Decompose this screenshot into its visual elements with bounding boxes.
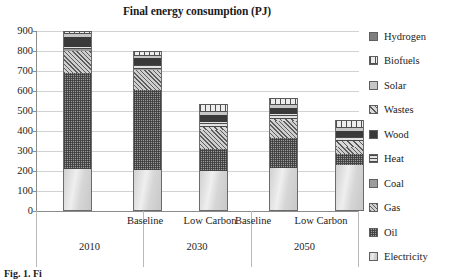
bar-segment-electricity[interactable]	[269, 168, 298, 211]
stacked-bar-2050-baseline[interactable]	[269, 98, 298, 211]
legend-swatch-wood-icon	[369, 130, 378, 139]
bar-segment-gas[interactable]	[269, 121, 298, 138]
x-axis-period-label-2030: 2030	[143, 241, 251, 252]
bar-segment-electricity[interactable]	[63, 169, 92, 211]
y-axis-tick-labels: 900 800 700 600 500 400 300 200 100 0	[0, 31, 33, 211]
y-axis-tick	[33, 51, 37, 52]
bar-segment-oil[interactable]	[335, 154, 364, 165]
bar-segment-wood[interactable]	[133, 58, 162, 65]
y-axis-tick	[33, 71, 37, 72]
legend-swatch-hydrogen-icon	[369, 32, 378, 41]
chart-title: Final energy consumption (PJ)	[36, 5, 358, 17]
bar-segment-biofuels[interactable]	[269, 98, 298, 105]
x-axis-scenario-label-2030-baseline: Baseline	[116, 215, 174, 226]
legend-label: Coal	[384, 178, 404, 189]
legend-swatch-gas-icon	[369, 203, 378, 212]
y-axis-tick	[33, 91, 37, 92]
bar-segment-oil[interactable]	[133, 90, 162, 170]
legend-label: Biofuels	[384, 55, 420, 66]
legend: Hydrogen Biofuels Solar Wastes Wood Heat…	[369, 24, 465, 269]
bar-segment-gas[interactable]	[133, 70, 162, 90]
legend-label: Gas	[384, 202, 400, 213]
bar-segment-gas[interactable]	[199, 130, 228, 149]
plot-area	[36, 31, 359, 212]
category-separator	[358, 211, 359, 267]
stacked-bar-2030-baseline[interactable]	[133, 51, 162, 211]
x-axis-period-label-2010: 2010	[36, 241, 143, 252]
legend-label: Heat	[384, 153, 404, 164]
legend-item-electricity[interactable]: Electricity	[369, 245, 465, 270]
legend-item-biofuels[interactable]: Biofuels	[369, 49, 465, 74]
y-axis-tick	[33, 191, 37, 192]
y-axis-tick	[33, 111, 37, 112]
bar-segment-oil[interactable]	[269, 138, 298, 168]
stacked-bar-2010[interactable]	[63, 31, 92, 211]
bar-segment-electricity[interactable]	[133, 170, 162, 211]
bar-segment-wood[interactable]	[199, 115, 228, 122]
bar-segment-oil[interactable]	[63, 73, 92, 169]
bar-segment-wood[interactable]	[63, 37, 92, 47]
legend-swatch-electricity-icon	[369, 252, 378, 261]
legend-item-wood[interactable]: Wood	[369, 122, 465, 147]
figure-caption-fragment: Fig. 1. Fi	[4, 268, 42, 279]
legend-label: Wood	[384, 129, 409, 140]
legend-label: Solar	[384, 80, 406, 91]
bar-segment-biofuels[interactable]	[335, 120, 364, 128]
x-axis-period-label-2050: 2050	[251, 241, 358, 252]
y-axis-tick	[33, 151, 37, 152]
y-tick-label: 100	[3, 186, 33, 196]
legend-swatch-wastes-icon	[369, 105, 378, 114]
y-tick-label: 0	[3, 206, 33, 216]
legend-item-heat[interactable]: Heat	[369, 147, 465, 172]
y-axis-tick	[33, 171, 37, 172]
legend-swatch-coal-icon	[369, 179, 378, 188]
legend-item-hydrogen[interactable]: Hydrogen	[369, 24, 465, 49]
y-tick-label: 500	[3, 106, 33, 116]
legend-label: Wastes	[384, 104, 413, 115]
legend-swatch-heat-icon	[369, 154, 378, 163]
y-axis-tick	[33, 131, 37, 132]
legend-item-oil[interactable]: Oil	[369, 220, 465, 245]
legend-swatch-oil-icon	[369, 228, 378, 237]
y-tick-label: 400	[3, 126, 33, 136]
bar-segment-electricity[interactable]	[335, 165, 364, 211]
bar-segment-biofuels[interactable]	[199, 104, 228, 112]
stacked-bar-2030-low-carbon[interactable]	[199, 104, 228, 211]
y-tick-label: 800	[3, 46, 33, 56]
legend-label: Oil	[384, 227, 397, 238]
chart-figure: Final energy consumption (PJ) 900 800 70…	[0, 0, 465, 279]
legend-swatch-biofuels-icon	[369, 56, 378, 65]
bar-segment-gas[interactable]	[335, 147, 364, 154]
bar-segment-electricity[interactable]	[199, 171, 228, 211]
x-axis-scenario-label-2050-low-carbon: Low Carbon	[284, 215, 358, 226]
legend-label: Hydrogen	[384, 31, 426, 42]
legend-swatch-solar-icon	[369, 81, 378, 90]
y-tick-label: 200	[3, 166, 33, 176]
y-tick-label: 300	[3, 146, 33, 156]
legend-item-solar[interactable]: Solar	[369, 73, 465, 98]
y-tick-label: 700	[3, 66, 33, 76]
legend-item-wastes[interactable]: Wastes	[369, 98, 465, 123]
y-tick-label: 600	[3, 86, 33, 96]
legend-label: Electricity	[384, 251, 428, 262]
bar-segment-gas[interactable]	[63, 51, 92, 73]
x-axis-scenario-label-2050-baseline: Baseline	[222, 215, 284, 226]
y-tick-label: 900	[3, 26, 33, 36]
bar-segment-oil[interactable]	[199, 149, 228, 171]
stacked-bar-2050-low-carbon[interactable]	[335, 120, 364, 211]
legend-item-gas[interactable]: Gas	[369, 196, 465, 221]
category-separator	[36, 211, 37, 267]
y-axis-tick	[33, 31, 37, 32]
legend-item-coal[interactable]: Coal	[369, 171, 465, 196]
